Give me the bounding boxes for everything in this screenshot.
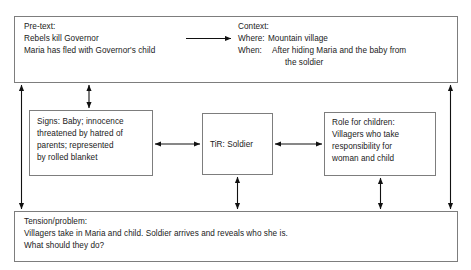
tension-line-2: What should they do?	[24, 240, 104, 251]
role-line-3: responsibility for	[332, 141, 392, 152]
pre-text-label: Pre-text:	[24, 21, 55, 32]
role-line-1: Role for children:	[332, 117, 395, 128]
signs-line-1: Signs: Baby; innocence	[37, 116, 124, 127]
context-where-key: Where:	[238, 33, 265, 44]
teacher-in-role-line-1: TiR: Soldier	[210, 139, 253, 150]
signs-line-4: by rolled blanket	[37, 152, 97, 163]
diagram-canvas: Pre-text: Rebels kill Governor Maria has…	[0, 0, 471, 270]
context-when-value-line-1: After hiding Maria and the baby from	[272, 45, 406, 56]
pre-text-line-2: Maria has fled with Governor's child	[24, 45, 155, 56]
pre-text-line-1: Rebels kill Governor	[24, 33, 99, 44]
signs-line-3: parents; represented	[37, 140, 114, 151]
signs-line-2: threatened by hatred of	[37, 128, 123, 139]
tension-label: Tension/problem:	[24, 216, 87, 227]
role-line-4: woman and child	[332, 153, 394, 164]
context-when-key: When:	[238, 45, 262, 56]
context-where-value: Mountain village	[268, 33, 328, 44]
context-label: Context:	[238, 21, 269, 32]
role-line-2: Villagers who take	[332, 129, 399, 140]
tension-line-1: Villagers take in Maria and child. Soldi…	[24, 228, 288, 239]
context-when-value-line-2: the soldier	[285, 57, 323, 68]
